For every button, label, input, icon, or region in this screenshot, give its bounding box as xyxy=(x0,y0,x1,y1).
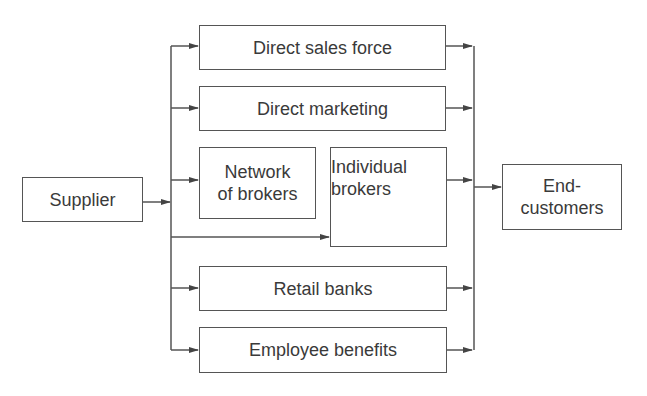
individual-brokers-label-line2: brokers xyxy=(331,178,391,200)
end-customers-label-line2: customers xyxy=(520,197,603,219)
retail-banks-node: Retail banks xyxy=(199,266,447,311)
individual-brokers-node: Individual brokers xyxy=(330,147,447,247)
direct-marketing-label: Direct marketing xyxy=(257,98,388,120)
supplier-label: Supplier xyxy=(49,189,115,211)
end-customers-node: End- customers xyxy=(502,164,622,230)
direct-sales-force-label: Direct sales force xyxy=(253,37,392,59)
retail-banks-label: Retail banks xyxy=(273,278,372,300)
employee-benefits-node: Employee benefits xyxy=(199,327,447,373)
end-customers-label-line1: End- xyxy=(543,175,581,197)
individual-brokers-label-line1: Individual xyxy=(331,156,407,178)
direct-marketing-node: Direct marketing xyxy=(199,86,446,131)
direct-sales-force-node: Direct sales force xyxy=(199,25,446,70)
network-of-brokers-label-line2: of brokers xyxy=(217,183,297,205)
supplier-node: Supplier xyxy=(22,177,143,222)
network-of-brokers-label-line1: Network xyxy=(224,161,290,183)
network-of-brokers-node: Network of brokers xyxy=(199,147,316,219)
employee-benefits-label: Employee benefits xyxy=(249,339,397,361)
